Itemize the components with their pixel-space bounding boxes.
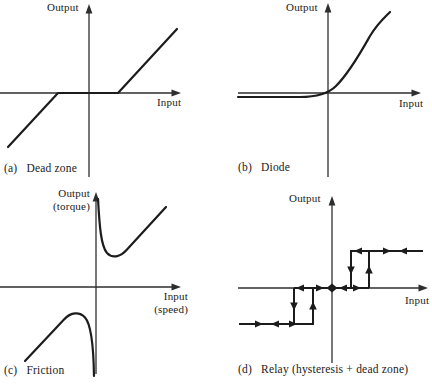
panel-c-y-axis-unit: (torque) (28, 200, 90, 213)
right-arrowhead-icon (316, 285, 324, 292)
left-arrowhead-icon (271, 321, 279, 328)
panel-a-caption-text: Dead zone (26, 162, 77, 174)
panel-c-x-axis-label-line1: Input (120, 290, 188, 303)
panel-a-caption: (a)Dead zone (4, 162, 77, 174)
panel-a-x-axis-label: Input (157, 96, 181, 108)
panel-d-y-axis-label: Output (289, 192, 321, 204)
panel-d-caption: (d)Relay (hysteresis + dead zone) (238, 363, 408, 375)
down-arrowhead-icon (290, 303, 298, 311)
panel-b-caption-prefix: (b) (238, 161, 252, 173)
panel-c-y-axis-label: Output (torque) (28, 187, 90, 212)
panel-c-caption: (c)Friction (4, 364, 64, 376)
panel-b-x-axis-label: Input (399, 97, 423, 109)
panel-b-caption-text: Diode (261, 161, 290, 173)
origin-diamond-icon (327, 284, 338, 293)
down-arrowhead-icon (347, 267, 355, 275)
up-arrowhead-icon (325, 3, 332, 13)
panel-c-y-axis-label-line1: Output (28, 187, 90, 200)
right-arrowhead-icon (383, 248, 391, 255)
right-arrowhead-icon (255, 321, 263, 328)
panel-a-axes (0, 4, 181, 177)
panel-a-caption-prefix: (a) (4, 162, 17, 174)
panel-d-axes (238, 196, 428, 363)
up-arrowhead-icon (329, 196, 336, 206)
relay-lower-right-branch (239, 288, 313, 324)
panel-c-x-axis-unit: (speed) (120, 303, 188, 316)
panel-d-caption-prefix: (d) (238, 363, 252, 375)
dead-zone-curve (8, 29, 177, 147)
right-arrowhead-icon (412, 90, 422, 97)
nonlinearities-figure: Output Input (a)Dead zone Output Input (… (0, 0, 432, 387)
up-arrowhead-icon (86, 4, 93, 14)
panel-b-caption: (b)Diode (238, 161, 290, 173)
panel-d-caption-text: Relay (hysteresis + dead zone) (261, 363, 408, 375)
diode-curve (238, 12, 390, 97)
right-arrowhead-icon (353, 285, 361, 292)
left-arrowhead-icon (399, 248, 407, 255)
left-arrowhead-icon (354, 248, 362, 255)
relay-upper-left-branch (351, 251, 423, 288)
panel-b-y-axis-label: Output (286, 1, 318, 13)
up-arrowhead-icon (365, 266, 373, 274)
panel-c-caption-prefix: (c) (4, 364, 17, 376)
left-arrowhead-icon (339, 285, 347, 292)
right-arrowhead-icon (419, 285, 429, 292)
up-arrowhead-icon (309, 302, 317, 310)
panel-d-x-axis-label: Input (405, 294, 429, 306)
friction-curve-upper (98, 199, 166, 256)
panel-a-y-axis-label: Output (47, 1, 79, 13)
panel-c-x-axis-label: Input (speed) (120, 290, 188, 315)
panel-c-caption-text: Friction (26, 364, 64, 376)
left-arrowhead-icon (296, 285, 304, 292)
